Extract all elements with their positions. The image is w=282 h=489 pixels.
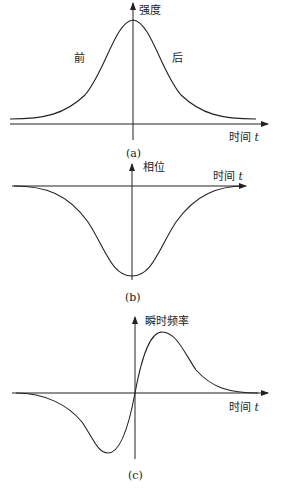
y-axis-label: 相位 [143, 160, 165, 174]
y-axis-label: 强度 [139, 3, 161, 17]
x-axis-label: 时间 t [213, 170, 244, 183]
x-axis-label: 时间 t [229, 401, 260, 414]
leading-edge-label: 前 [74, 51, 85, 65]
caption-b: (b) [125, 291, 141, 304]
pulse-diagram: 强度 前 后 时间 t (a) 相位 时间 t (b) 瞬时频率 时间 t (c… [0, 0, 282, 489]
panel-c-instantaneous-frequency: 瞬时频率 时间 t (c) [12, 314, 268, 482]
x-axis-label: 时间 t [229, 131, 260, 144]
panel-a-intensity: 强度 前 后 时间 t (a) [10, 3, 268, 160]
phase-curve [14, 186, 244, 276]
panel-b-phase: 相位 时间 t (b) [12, 160, 246, 304]
caption-a: (a) [126, 147, 141, 160]
trailing-edge-label: 后 [172, 52, 183, 65]
caption-c: (c) [128, 469, 143, 482]
y-axis-label: 瞬时频率 [145, 314, 189, 328]
